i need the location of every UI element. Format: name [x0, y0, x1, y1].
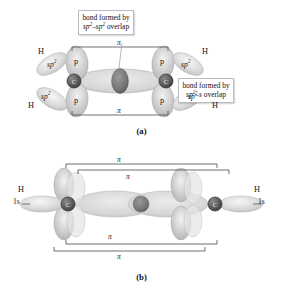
callout-sp2-sp2-text: sp2–sp2 [83, 22, 105, 31]
pi-bracket-top-outer [66, 164, 217, 168]
p-orbital-label-left-top: p [74, 57, 78, 66]
hydrogen-label-right-b: H [254, 185, 260, 194]
right-p-orbital-top-perp [184, 172, 202, 204]
sp2-label-left-upper: sp2 [47, 60, 56, 69]
orbital-label-1s-right: 1s [258, 197, 265, 206]
pi-label-bottom-a: π [117, 106, 121, 115]
hydrogen-label-right-lower: H [212, 101, 218, 110]
callout-sigma-sp2-s: bond formed by sp2–s overlap [178, 78, 234, 103]
callout-sigma-sp2-s-line1: bond formed by [182, 81, 229, 90]
orbital-label-1s-left: 1s [13, 197, 20, 206]
pi-bracket-top-inner [78, 170, 229, 174]
pi-label-bottom-inner-b: π [108, 232, 112, 241]
panel-a-caption: (a) [0, 126, 283, 136]
sp2-label-right-lower: sp2 [188, 92, 197, 101]
right-p-orbital-bottom-perp [184, 205, 202, 237]
pi-label-top-a: π [117, 38, 121, 47]
pi-bracket-bottom-outer [54, 247, 205, 251]
carbon-atom-right-label: C [164, 78, 169, 86]
panel-b-caption: (b) [0, 272, 283, 282]
carbon-atom-left-label-b: C [66, 201, 71, 209]
hydrogen-label-right-upper: H [202, 47, 208, 56]
sp2-label-left-lower: sp2 [41, 92, 50, 101]
hydrogen-label-left-b: H [18, 185, 24, 194]
figure-canvas: C C [0, 0, 283, 296]
hydrogen-label-left-lower: H [28, 101, 34, 110]
p-orbital-label-right-top: p [160, 57, 164, 66]
pi-label-bottom-outer-b: π [117, 252, 121, 261]
carbon-atom-right-label-b: C [213, 201, 218, 209]
hydrogen-label-left-upper: H [38, 47, 44, 56]
callout-sigma-sp2-sp2: bond formed by sp2–sp2 overlap [78, 10, 134, 35]
pi-bracket-bottom-inner [66, 240, 217, 244]
p-orbital-label-left-bottom: p [74, 96, 78, 105]
panel-b-graphics: C C [20, 164, 263, 251]
orbital-bonding-figure: C C [0, 0, 283, 296]
p-orbital-label-right-bottom: p [160, 96, 164, 105]
sigma-bond-lens [74, 69, 166, 94]
pi-label-top-inner-b: π [126, 172, 130, 181]
pi-label-top-outer-b: π [117, 155, 121, 164]
callout-sigma-sp2-sp2-line2: sp2–sp2 overlap [82, 22, 129, 31]
left-sp2-lobe-lower [33, 83, 71, 115]
sp2-label-right-upper: sp2 [181, 60, 190, 69]
carbon-atom-left-label: C [72, 78, 77, 86]
pi-bracket-top [72, 47, 168, 51]
